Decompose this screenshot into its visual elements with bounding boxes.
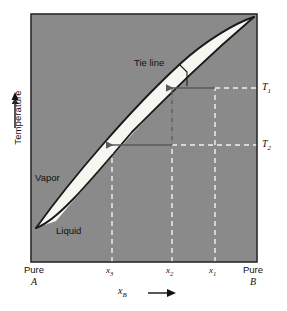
corner-label-pure-b-line1: Pure [243,264,263,275]
composition-tick-x1: x1 [209,265,216,277]
phase-diagram-figure: Temperature xB T1 T2 x3 x2 x1 PureA Pure… [0,0,287,311]
corner-label-pure-a-line1: Pure [24,264,44,275]
region-label-liquid: Liquid [56,225,81,236]
composition-tick-x3: x3 [106,265,113,277]
annotation-tie-line: Tie line [134,57,164,68]
temperature-tick-T2-subscript: 2 [268,144,272,152]
temperature-tick-T2: T2 [262,138,271,152]
region-label-vapor: Vapor [35,172,60,183]
x-axis-title: xB [118,285,127,299]
temperature-tick-T1: T1 [262,81,271,95]
x-axis-title-subscript: B [122,291,126,299]
composition-tick-x2: x2 [166,265,173,277]
composition-tick-x2-subscript: 2 [170,270,173,277]
composition-tick-x3-subscript: 3 [110,270,113,277]
corner-label-pure-a: PureA [24,264,44,288]
corner-label-pure-b: PureB [243,264,263,288]
corner-label-pure-a-symbol: A [24,276,44,288]
x-axis-arrowhead [167,289,176,297]
temperature-tick-T1-subscript: 1 [268,87,272,95]
corner-label-pure-b-symbol: B [243,276,263,288]
y-axis-title: Temperature [12,68,23,168]
composition-tick-x1-subscript: 1 [213,270,216,277]
